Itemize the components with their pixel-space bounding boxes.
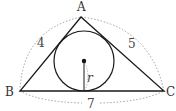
- vertex-label-c: C: [166, 85, 175, 99]
- vertex-label-a: A: [76, 0, 86, 14]
- triangle-incircle-diagram: A B C 4 5 7 r: [0, 0, 176, 111]
- radius-label: r: [87, 71, 94, 85]
- side-length-ac: 5: [128, 37, 136, 51]
- arc-side-bc-right: [100, 91, 164, 103]
- side-length-ab: 4: [37, 36, 45, 50]
- diagram-svg: A B C 4 5 7 r: [0, 0, 176, 111]
- arc-side-bc-left: [20, 91, 82, 103]
- vertex-label-b: B: [5, 85, 14, 99]
- side-length-bc: 7: [87, 97, 95, 111]
